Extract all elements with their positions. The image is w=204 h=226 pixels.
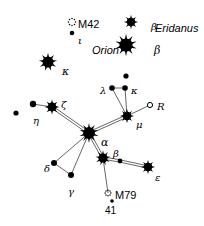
constellation-line: [103, 158, 108, 193]
star-marker-lepus-unnamed-left: [13, 110, 18, 115]
star-marker-alpha-leporis: [80, 123, 99, 143]
star-label-beta-leporis: β: [113, 149, 119, 159]
dso-marker-M42: [68, 18, 77, 27]
star-marker-R-leporis: [147, 102, 152, 107]
star-label-mu-leporis: μ: [136, 120, 143, 130]
star-marker-mu-leporis: [120, 109, 134, 123]
star-marker-lepus-unnamed-mid: [118, 159, 123, 164]
constellation-label-orion: Orion: [92, 45, 119, 56]
constellation-line: [54, 133, 89, 163]
dso-label-M42: M42: [78, 19, 99, 30]
object-id-label-41: 41: [105, 206, 116, 216]
star-label-R-leporis: R: [157, 102, 165, 112]
constellation-line: [71, 133, 89, 175]
constellation-line: [51, 106, 89, 134]
star-marker-iota-orionis: [70, 31, 75, 36]
star-marker-eta-leporis: [30, 101, 36, 107]
constellation-label-eridanus: Eridanus: [155, 23, 198, 34]
star-marker-delta-leporis: [51, 160, 57, 166]
star-marker-star-41-leporis: [110, 199, 114, 203]
star-label-beta-orionis: β: [154, 45, 160, 56]
star-label-eta-leporis: η: [33, 116, 39, 126]
star-marker-beta-eridani: [124, 15, 138, 29]
star-marker-lambda-leporis: [109, 85, 115, 91]
star-label-lambda-leporis: λ: [100, 86, 106, 96]
star-label-iota-orionis: ι: [78, 36, 82, 46]
star-marker-zeta-leporis: [45, 100, 60, 115]
star-label-kappa-leporis: κ: [131, 86, 138, 96]
star-markers: [13, 15, 155, 203]
dso-label-M79: M79: [115, 190, 136, 201]
star-marker-kappa-leporis: [122, 85, 128, 91]
star-marker-lepus-unnamed-top: [123, 73, 128, 78]
star-marker-kappa-orionis: [39, 53, 57, 71]
star-label-kappa-orionis: κ: [62, 66, 69, 77]
star-label-gamma-leporis: γ: [68, 187, 74, 197]
constellation-line: [54, 163, 71, 175]
star-marker-epsilon-leporis: [141, 160, 155, 174]
star-marker-gamma-leporis: [68, 172, 74, 178]
constellation-line: [112, 88, 127, 116]
star-chart: ββκιλκRμζηαβεδγM42M79OrionEridanus41: [0, 0, 204, 226]
star-label-delta-leporis: δ: [44, 164, 50, 174]
star-label-epsilon-leporis: ε: [155, 173, 160, 183]
star-label-zeta-leporis: ζ: [61, 100, 66, 110]
star-label-alpha-leporis: α: [101, 137, 108, 148]
